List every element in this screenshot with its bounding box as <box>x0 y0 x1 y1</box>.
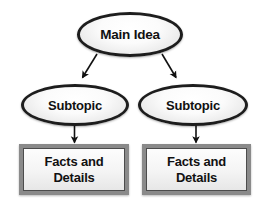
node-main-idea-label: Main Idea <box>100 28 160 42</box>
node-facts-and-details-left: Facts and Details <box>19 144 129 195</box>
node-subtopic-right: Subtopic <box>138 84 248 126</box>
node-main-idea: Main Idea <box>77 12 183 57</box>
node-subtopic-left-label: Subtopic <box>48 99 102 112</box>
connector-main-idea-to-subtopic-right <box>162 54 176 78</box>
facts-left-line-1: Facts and <box>45 154 104 169</box>
facts-right-line-2: Details <box>176 170 217 185</box>
connector-main-idea-to-subtopic-left <box>83 54 98 78</box>
node-subtopic-right-label: Subtopic <box>166 99 220 112</box>
node-facts-and-details-left-label: Facts and Details <box>45 154 104 185</box>
node-facts-and-details-right: Facts and Details <box>142 144 251 195</box>
node-facts-and-details-right-label: Facts and Details <box>167 154 226 185</box>
facts-right-line-1: Facts and <box>167 154 226 169</box>
node-subtopic-left: Subtopic <box>21 84 129 126</box>
graphic-organizer-diagram: Main Idea Subtopic Subtopic Facts and De… <box>0 0 257 208</box>
facts-left-line-2: Details <box>53 170 94 185</box>
